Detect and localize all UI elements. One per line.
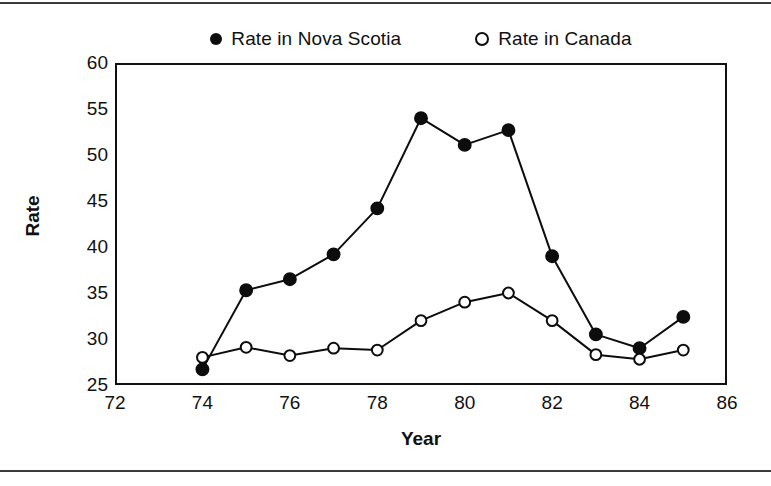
y-axis-tick-labels: 2530354045505560 bbox=[58, 63, 108, 385]
x-axis-tick-labels: 7274767880828486 bbox=[115, 392, 727, 418]
data-point-nova-scotia bbox=[196, 363, 208, 375]
chart-legend: Rate in Nova Scotia Rate in Canada bbox=[115, 24, 727, 54]
y-tick-label: 50 bbox=[64, 144, 108, 166]
x-tick-label: 84 bbox=[616, 392, 664, 414]
x-tick-label: 76 bbox=[266, 392, 314, 414]
data-point-canada bbox=[416, 315, 427, 326]
y-tick-label: 30 bbox=[64, 328, 108, 350]
data-point-canada bbox=[372, 345, 383, 356]
legend-label-nova-scotia: Rate in Nova Scotia bbox=[231, 28, 401, 50]
open-circle-marker-icon bbox=[475, 32, 489, 46]
data-point-nova-scotia bbox=[633, 342, 645, 354]
data-point-canada bbox=[241, 342, 252, 353]
y-axis-title: Rate bbox=[22, 171, 44, 261]
data-point-nova-scotia bbox=[284, 273, 296, 285]
data-point-nova-scotia bbox=[327, 248, 339, 260]
data-point-nova-scotia bbox=[546, 250, 558, 262]
x-tick-label: 80 bbox=[441, 392, 489, 414]
data-point-canada bbox=[503, 288, 514, 299]
data-point-nova-scotia bbox=[502, 124, 514, 136]
data-point-canada bbox=[590, 349, 601, 360]
y-tick-label: 45 bbox=[64, 190, 108, 212]
data-point-nova-scotia bbox=[415, 112, 427, 124]
series-line-nova-scotia bbox=[202, 118, 683, 369]
line-chart-figure: Rate in Nova Scotia Rate in Canada 25303… bbox=[0, 0, 771, 486]
data-point-canada bbox=[634, 354, 645, 365]
data-point-canada bbox=[328, 343, 339, 354]
x-tick-label: 86 bbox=[703, 392, 751, 414]
data-point-canada bbox=[197, 352, 208, 363]
data-point-nova-scotia bbox=[240, 284, 252, 296]
data-point-canada bbox=[284, 350, 295, 361]
y-tick-label: 40 bbox=[64, 236, 108, 258]
x-tick-label: 74 bbox=[178, 392, 226, 414]
chart-page: Rate in Nova Scotia Rate in Canada 25303… bbox=[0, 0, 771, 486]
data-point-nova-scotia bbox=[459, 139, 471, 151]
legend-item-canada: Rate in Canada bbox=[475, 28, 631, 50]
x-tick-label: 72 bbox=[91, 392, 139, 414]
x-axis-title: Year bbox=[115, 428, 727, 450]
filled-circle-marker-icon bbox=[210, 33, 222, 45]
series-line-canada bbox=[202, 293, 683, 359]
plot-series-canvas bbox=[115, 63, 727, 385]
y-tick-label: 55 bbox=[64, 98, 108, 120]
legend-label-canada: Rate in Canada bbox=[498, 28, 631, 50]
data-point-nova-scotia bbox=[677, 311, 689, 323]
data-point-nova-scotia bbox=[590, 328, 602, 340]
data-point-canada bbox=[678, 345, 689, 356]
x-tick-label: 82 bbox=[528, 392, 576, 414]
data-point-nova-scotia bbox=[371, 202, 383, 214]
data-point-canada bbox=[459, 297, 470, 308]
x-tick-label: 78 bbox=[353, 392, 401, 414]
y-tick-label: 60 bbox=[64, 52, 108, 74]
y-tick-label: 35 bbox=[64, 282, 108, 304]
legend-item-nova-scotia: Rate in Nova Scotia bbox=[210, 28, 401, 50]
data-point-canada bbox=[547, 315, 558, 326]
